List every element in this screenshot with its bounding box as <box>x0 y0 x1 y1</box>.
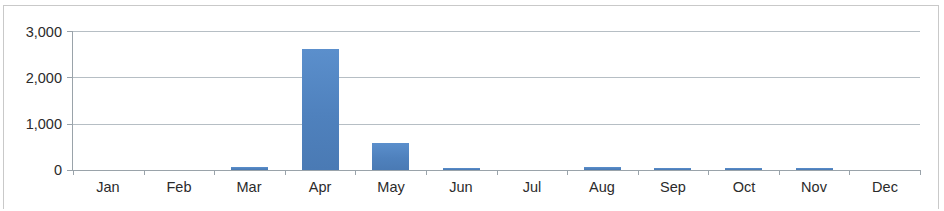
bar-chart: 3,000 2,000 1,000 0 JanFebMarAprMayJunJu… <box>0 0 944 211</box>
category-axis-tick-mark <box>497 170 498 175</box>
category-axis-tick-mark <box>214 170 215 175</box>
category-axis-label-oct: Oct <box>733 180 756 195</box>
y-axis-tick-label: 2,000 <box>0 71 62 86</box>
category-axis-label-apr: Apr <box>309 180 332 195</box>
category-axis-tick-mark <box>144 170 145 175</box>
category-axis-tick-mark <box>285 170 286 175</box>
category-axis-tick-mark <box>567 170 568 175</box>
category-axis-tick-mark <box>849 170 850 175</box>
category-axis-tick-mark <box>708 170 709 175</box>
category-axis-label-mar: Mar <box>237 180 262 195</box>
y-axis-tick-label: 1,000 <box>0 117 62 132</box>
category-axis-label-jan: Jan <box>96 180 119 195</box>
y-axis-tick-label: 3,000 <box>0 25 62 40</box>
bar-may[interactable] <box>372 143 409 170</box>
y-axis-labels: 3,000 2,000 1,000 0 <box>0 0 62 211</box>
category-axis-tick-mark <box>920 170 921 175</box>
bar-series <box>73 31 920 170</box>
category-axis-label-jul: Jul <box>523 180 542 195</box>
category-axis-label-dec: Dec <box>872 180 898 195</box>
category-axis-label-feb: Feb <box>167 180 192 195</box>
category-axis-tick-mark <box>355 170 356 175</box>
category-axis-tick-mark <box>638 170 639 175</box>
category-axis-tick-mark <box>779 170 780 175</box>
bar-apr[interactable] <box>302 49 339 170</box>
category-axis-tick-mark <box>426 170 427 175</box>
category-axis-label-jun: Jun <box>449 180 472 195</box>
category-axis-label-nov: Nov <box>801 180 827 195</box>
category-axis-label-may: May <box>377 180 404 195</box>
category-axis-label-sep: Sep <box>660 180 686 195</box>
category-axis-label-aug: Aug <box>589 180 615 195</box>
y-axis-tick-label: 0 <box>0 163 62 178</box>
category-axis-tick-mark <box>73 170 74 175</box>
